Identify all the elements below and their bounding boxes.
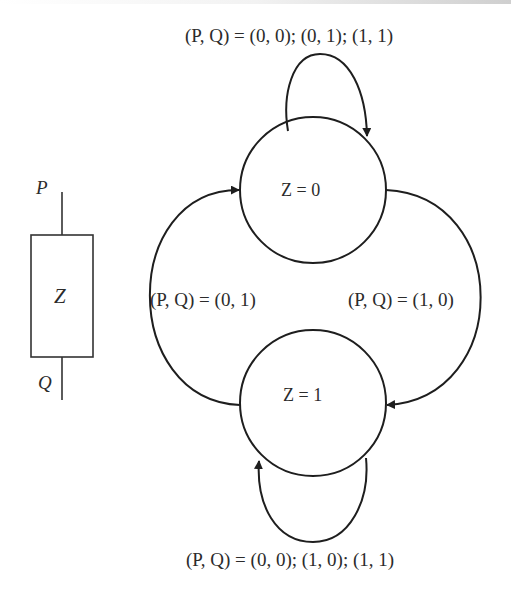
component-label: Z — [54, 286, 66, 307]
input-label-p: P — [36, 178, 48, 197]
self-loop-arrow-z1 — [259, 458, 367, 542]
transition-label-z1-to-z0: (P, Q) = (0, 1) — [150, 290, 256, 309]
input-label-q: Q — [38, 373, 52, 392]
self-loop-arrow-z0 — [286, 54, 367, 136]
transition-label-z0-self: (P, Q) = (0, 0); (0, 1); (1, 1) — [185, 26, 393, 45]
transition-label-z1-self: (P, Q) = (0, 0); (1, 0); (1, 1) — [186, 550, 394, 569]
state-label-z1: Z = 1 — [283, 386, 322, 404]
transition-label-z0-to-z1: (P, Q) = (1, 0) — [348, 290, 454, 309]
state-label-z0: Z = 0 — [281, 181, 320, 199]
